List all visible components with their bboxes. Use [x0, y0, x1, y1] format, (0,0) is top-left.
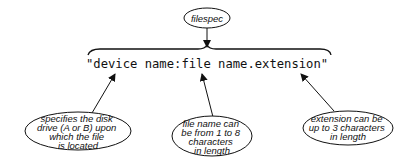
filespec-label: filespec	[191, 13, 223, 24]
callout-line: in length	[194, 145, 230, 156]
filespec-node: filespec	[184, 8, 230, 28]
extension-callout: extension can be up to 3 characters in l…	[303, 111, 393, 145]
curly-brace	[88, 45, 331, 55]
callout-line: in length	[330, 131, 366, 142]
filename-arrow	[202, 74, 213, 117]
filespec-diagram: filespec "device name:file name.extensio…	[0, 0, 414, 167]
filespec-string: "device name:file name.extension"	[86, 57, 328, 71]
callout-line: is located	[58, 140, 99, 151]
filename-callout: file name can be from 1 to 8 characters …	[172, 116, 252, 156]
device-callout: specifies the disk drive (A or B) upon w…	[25, 112, 131, 151]
extension-arrow	[301, 74, 334, 111]
device-arrow	[92, 74, 115, 113]
